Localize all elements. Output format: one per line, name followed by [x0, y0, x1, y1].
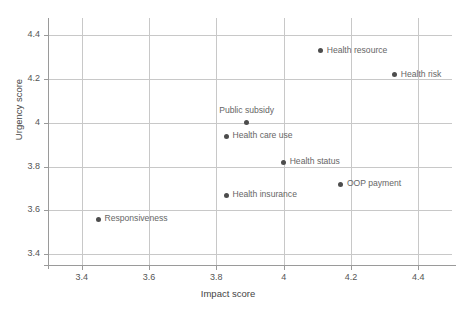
y-tick-mark [44, 79, 48, 80]
gridline-horizontal [48, 254, 452, 255]
data-point-label: Responsiveness [105, 213, 168, 223]
gridline-horizontal [48, 123, 452, 124]
y-tick-label: 4.4 [8, 29, 40, 39]
y-tick-mark [44, 254, 48, 255]
x-tick-label: 3.4 [62, 272, 102, 282]
plot-area: Health resourceHealth riskPublic subsidy… [48, 18, 452, 265]
data-point-label: Health status [290, 156, 340, 166]
y-tick-label: 3.6 [8, 204, 40, 214]
data-point[interactable] [392, 72, 397, 77]
gridline-vertical [284, 18, 285, 265]
scatter-chart: Health resourceHealth riskPublic subsidy… [0, 0, 456, 313]
gridline-horizontal [48, 167, 452, 168]
gridline-horizontal [48, 35, 452, 36]
y-tick-label: 3.4 [8, 248, 40, 258]
x-tick-label: 4 [264, 272, 304, 282]
gridline-vertical [82, 18, 83, 265]
x-tick-mark [284, 266, 285, 270]
data-point-label: Health risk [401, 69, 442, 79]
data-point[interactable] [224, 193, 229, 198]
data-point[interactable] [281, 160, 286, 165]
data-point[interactable] [224, 134, 229, 139]
x-tick-mark [82, 266, 83, 270]
x-tick-mark [418, 266, 419, 270]
x-tick-label: 3.8 [196, 272, 236, 282]
x-tick-mark [351, 266, 352, 270]
y-tick-label: 4 [8, 117, 40, 127]
data-point-label: Public subsidy [219, 105, 274, 115]
x-tick-mark [149, 266, 150, 270]
data-point[interactable] [244, 120, 249, 125]
data-point-label: Health care use [232, 130, 292, 140]
y-tick-mark [44, 210, 48, 211]
data-point[interactable] [338, 182, 343, 187]
y-tick-mark [44, 167, 48, 168]
gridline-horizontal [48, 210, 452, 211]
x-axis-title: Impact score [0, 288, 456, 299]
gridline-vertical [149, 18, 150, 265]
gridline-vertical [351, 18, 352, 265]
data-point[interactable] [318, 48, 323, 53]
y-tick-label: 3.8 [8, 161, 40, 171]
x-tick-label: 3.6 [129, 272, 169, 282]
data-point-label: OOP payment [347, 178, 401, 188]
y-axis-spine [48, 18, 49, 269]
data-point[interactable] [96, 217, 101, 222]
y-tick-mark [44, 123, 48, 124]
gridline-vertical [216, 18, 217, 265]
x-tick-label: 4.2 [331, 272, 371, 282]
data-point-label: Health insurance [232, 189, 297, 199]
x-tick-label: 4.4 [398, 272, 438, 282]
x-tick-mark [216, 266, 217, 270]
x-axis-spine [44, 265, 456, 266]
y-tick-mark [44, 35, 48, 36]
y-tick-label: 4.2 [8, 73, 40, 83]
gridline-horizontal [48, 79, 452, 80]
gridline-vertical [418, 18, 419, 265]
data-point-label: Health resource [327, 45, 388, 55]
y-axis-title: Urgency score [13, 40, 24, 180]
